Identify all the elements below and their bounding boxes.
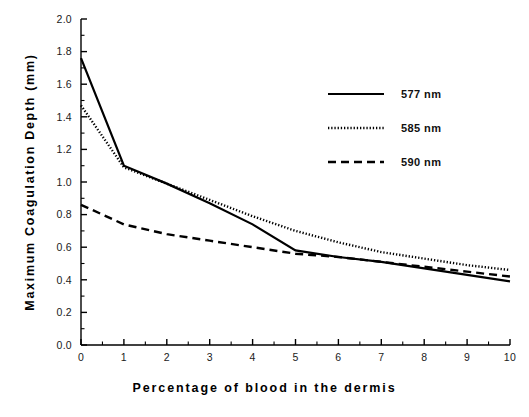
y-tick-label: 1.8: [57, 45, 73, 57]
x-axis-tick-labels: 012345678910: [78, 351, 516, 363]
series-line-577-nm: [81, 58, 510, 281]
x-axis-ticks: [81, 339, 510, 345]
y-axis-tick-labels: 0.00.20.40.60.81.01.21.41.61.82.0: [57, 13, 73, 351]
series-line-590-nm: [81, 205, 510, 277]
data-series-group: [81, 58, 510, 281]
x-tick-label: 9: [464, 351, 470, 363]
x-tick-label: 0: [78, 351, 84, 363]
y-axis-label: Maximum Coagulation Depth (mm): [23, 17, 37, 347]
y-tick-label: 0.8: [57, 208, 73, 220]
x-tick-label: 8: [421, 351, 427, 363]
y-tick-label: 0.0: [57, 339, 73, 351]
y-tick-label: 0.6: [57, 241, 73, 253]
chart-figure: 0.00.20.40.60.81.01.21.41.61.82.0 012345…: [0, 0, 529, 417]
x-tick-label: 4: [250, 351, 256, 363]
y-tick-label: 1.4: [57, 111, 73, 123]
x-tick-label: 1: [121, 351, 127, 363]
x-tick-label: 10: [504, 351, 516, 363]
y-tick-label: 0.4: [57, 274, 73, 286]
x-axis-label: Percentage of blood in the dermis: [0, 381, 529, 395]
y-tick-label: 0.2: [57, 306, 73, 318]
plot-canvas: 0.00.20.40.60.81.01.21.41.61.82.0 012345…: [0, 0, 529, 417]
y-tick-label: 1.2: [57, 143, 73, 155]
y-tick-label: 1.6: [57, 78, 73, 90]
y-tick-label: 1.0: [57, 176, 73, 188]
x-tick-label: 5: [292, 351, 298, 363]
x-tick-label: 7: [378, 351, 384, 363]
x-tick-label: 6: [335, 351, 341, 363]
legend-label-590-nm: 590 nm: [401, 156, 441, 168]
chart-legend: 577 nm585 nm590 nm: [328, 88, 441, 168]
y-tick-label: 2.0: [57, 13, 73, 25]
legend-label-577-nm: 577 nm: [401, 88, 441, 100]
series-line-585-nm: [81, 105, 510, 270]
x-tick-label: 3: [207, 351, 213, 363]
axes: [81, 19, 510, 345]
x-tick-label: 2: [164, 351, 170, 363]
legend-label-585-nm: 585 nm: [401, 122, 441, 134]
